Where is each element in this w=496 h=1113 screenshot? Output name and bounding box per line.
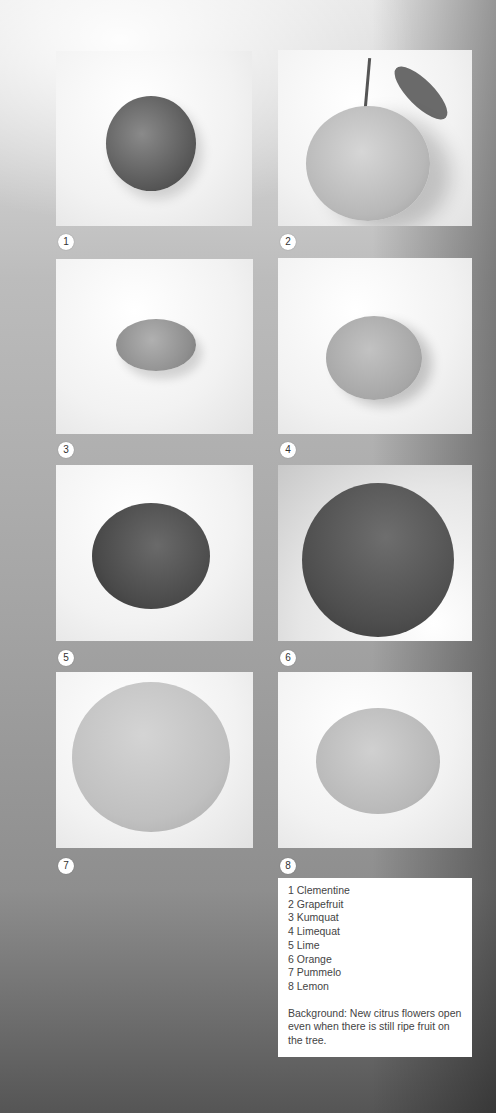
fruit-key-list: 1 Clementine 2 Grapefruit 3 Kumquat 4 Li…	[288, 884, 462, 994]
badge-2: 2	[280, 234, 296, 250]
background-note: Background: New citrus flowers open even…	[288, 1007, 462, 1048]
photo-kumquat	[56, 259, 253, 434]
key-item: 4 Limequat	[288, 925, 462, 939]
photo-limequat	[278, 258, 472, 434]
kumquat-fruit	[116, 319, 196, 371]
photo-lemon	[278, 672, 472, 848]
caption-box: 1 Clementine 2 Grapefruit 3 Kumquat 4 Li…	[278, 878, 472, 1057]
photo-orange	[278, 465, 472, 641]
badge-4: 4	[280, 442, 296, 458]
badge-6: 6	[280, 650, 296, 666]
grapefruit-fruit	[306, 106, 430, 221]
lemon-fruit	[316, 708, 440, 814]
stem	[364, 58, 371, 108]
clementine-fruit	[106, 96, 196, 191]
key-item: 7 Pummelo	[288, 966, 462, 980]
orange-fruit	[302, 483, 454, 637]
limequat-fruit	[326, 316, 422, 400]
badge-3: 3	[58, 442, 74, 458]
photo-lime	[56, 465, 253, 641]
photo-grapefruit	[278, 50, 472, 226]
badge-5: 5	[58, 650, 74, 666]
badge-1: 1	[58, 234, 74, 250]
lime-fruit	[92, 503, 210, 609]
key-item: 3 Kumquat	[288, 911, 462, 925]
photo-pummelo	[56, 672, 253, 848]
key-item: 6 Orange	[288, 953, 462, 967]
key-item: 8 Lemon	[288, 980, 462, 994]
key-item: 1 Clementine	[288, 884, 462, 898]
key-item: 5 Lime	[288, 939, 462, 953]
photo-clementine	[56, 51, 252, 226]
pummelo-fruit	[72, 682, 230, 832]
badge-7: 7	[58, 858, 74, 874]
badge-8: 8	[280, 858, 296, 874]
key-item: 2 Grapefruit	[288, 898, 462, 912]
